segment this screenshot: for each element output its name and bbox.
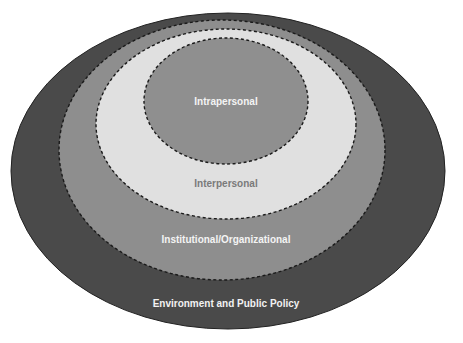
- label-interpersonal: Interpersonal: [194, 178, 258, 189]
- label-environment-public-policy: Environment and Public Policy: [153, 298, 300, 309]
- nested-ellipse-diagram: Intrapersonal Interpersonal Institutiona…: [0, 0, 463, 343]
- label-intrapersonal: Intrapersonal: [194, 96, 258, 107]
- label-institutional-organizational: Institutional/Organizational: [162, 234, 291, 245]
